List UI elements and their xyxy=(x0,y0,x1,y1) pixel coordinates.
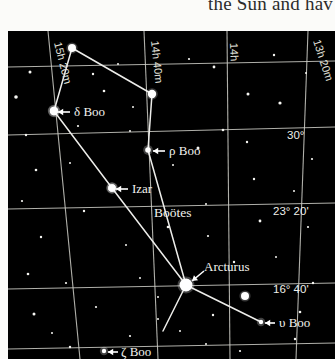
star-arcturus[interactable] xyxy=(180,279,193,292)
field-star-37 xyxy=(33,313,36,316)
star-label-rho-boo: ρ Boo xyxy=(169,143,200,158)
field-star-50 xyxy=(207,235,209,237)
field-star-14 xyxy=(129,130,131,132)
star-label-delta-boo: δ Boo xyxy=(74,104,105,119)
field-star-11 xyxy=(278,101,281,104)
field-star-43 xyxy=(129,335,131,337)
field-star-6 xyxy=(305,72,307,74)
star-label-zeta-boo: ζ Boo xyxy=(121,344,151,359)
field-star-33 xyxy=(27,273,30,276)
field-star-13 xyxy=(77,125,79,127)
page-root: the Sun and hav 15h 20m14h 40m14h13h 20m… xyxy=(0,0,335,359)
star-chart-svg: 15h 20m14h 40m14h13h 20m30°23° 20'16° 40… xyxy=(8,31,335,359)
field-star-25 xyxy=(167,226,170,229)
field-star-1 xyxy=(92,73,94,75)
dec-label-1: 23° 20' xyxy=(273,205,309,217)
field-star-32 xyxy=(275,256,277,258)
field-star-23 xyxy=(21,200,23,202)
field-star-35 xyxy=(139,277,141,279)
field-star-26 xyxy=(205,203,207,205)
field-star-15 xyxy=(222,129,225,132)
page-body-text: the Sun and hav xyxy=(0,0,335,19)
field-star-12 xyxy=(25,134,27,136)
star-label-izar: Izar xyxy=(132,181,153,196)
field-star-24 xyxy=(83,210,85,212)
field-star-51 xyxy=(172,164,174,166)
star-izar[interactable] xyxy=(108,184,116,192)
ra-label-2: 14h xyxy=(228,43,241,62)
field-star-40 xyxy=(212,314,214,316)
star-rho-boo[interactable] xyxy=(145,147,151,153)
field-star-3 xyxy=(188,58,190,60)
field-star-27 xyxy=(259,220,262,223)
field-star-45 xyxy=(69,346,71,348)
field-star-5 xyxy=(273,54,275,56)
field-star-46 xyxy=(205,343,207,345)
field-star-49 xyxy=(157,296,159,298)
field-star-0 xyxy=(29,71,32,74)
field-star-38 xyxy=(95,306,97,308)
field-star-28 xyxy=(307,226,309,228)
star-upsilon-boo[interactable] xyxy=(259,320,263,324)
constellation-label-group: Boötes xyxy=(154,205,192,220)
field-star-20 xyxy=(69,162,71,164)
field-star-29 xyxy=(40,236,42,238)
star-zeta-boo[interactable] xyxy=(102,349,106,353)
field-star-16 xyxy=(246,141,248,143)
chart-background xyxy=(8,31,335,359)
dec-label-0: 30° xyxy=(287,129,304,141)
field-star-10 xyxy=(247,93,250,96)
star-delta-boo[interactable] xyxy=(50,107,58,115)
field-star-8 xyxy=(103,90,106,93)
field-star-34 xyxy=(65,282,67,284)
field-star-41 xyxy=(299,311,302,314)
field-star-9 xyxy=(132,106,134,108)
field-star-39 xyxy=(157,318,159,320)
dec-label-2: 16° 40' xyxy=(273,283,309,295)
field-star-36 xyxy=(312,282,314,284)
star-label-upsilon-boo: υ Boo xyxy=(279,315,310,330)
bright-star-0 xyxy=(68,44,76,52)
field-star-21 xyxy=(253,178,255,180)
field-star-42 xyxy=(51,332,53,334)
field-star-47 xyxy=(239,350,241,352)
field-star-19 xyxy=(35,169,38,172)
field-star-30 xyxy=(125,244,127,246)
field-star-48 xyxy=(294,338,296,340)
constellation-name-label: Boötes xyxy=(154,205,192,220)
bright-star-1 xyxy=(148,90,156,98)
field-star-44 xyxy=(179,330,181,332)
field-star-18 xyxy=(311,158,313,160)
field-star-4 xyxy=(213,66,216,69)
star-chart-plate: 15h 20m14h 40m14h13h 20m30°23° 20'16° 40… xyxy=(8,31,335,359)
field-star-22 xyxy=(293,190,295,192)
star-label-arcturus: Arcturus xyxy=(204,259,250,274)
field-star-2 xyxy=(117,63,119,65)
bright-star-2 xyxy=(241,292,249,300)
field-star-7 xyxy=(14,95,18,99)
